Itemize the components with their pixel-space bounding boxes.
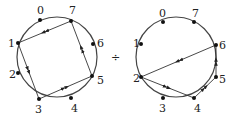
node-5: [90, 74, 94, 78]
operator-symbol: ÷: [111, 51, 120, 64]
node-label-5: 5: [97, 74, 104, 87]
node-2: [16, 71, 20, 75]
arrow-icon: [65, 87, 67, 88]
node-1: [16, 41, 20, 45]
node-6: [214, 43, 218, 47]
cycle-diagrams: 0765432107654321÷: [0, 0, 233, 117]
right-cycle: 07654321: [133, 7, 226, 115]
node-6: [91, 42, 95, 46]
node-label-4: 4: [71, 102, 78, 115]
arrow-icon: [61, 88, 63, 89]
node-0: [161, 20, 165, 24]
left-cycle: 07654321: [8, 4, 104, 116]
node-label-3: 3: [159, 102, 166, 115]
node-label-1: 1: [133, 37, 140, 50]
arrow-icon: [202, 89, 203, 90]
node-7: [69, 19, 73, 23]
node-0: [38, 18, 42, 22]
node-label-3: 3: [35, 103, 42, 116]
arrow-icon: [181, 59, 183, 60]
node-label-6: 6: [219, 39, 226, 52]
node-label-0: 0: [37, 4, 44, 17]
node-label-2: 2: [133, 72, 140, 85]
arrow-icon: [167, 87, 169, 88]
arrow-icon: [27, 67, 28, 69]
arrow-icon: [163, 86, 165, 87]
arrow-icon: [47, 30, 49, 31]
node-4: [69, 96, 73, 100]
node-5: [214, 75, 218, 79]
arrow-icon: [28, 71, 29, 73]
node-label-7: 7: [69, 4, 76, 17]
arrow-icon: [82, 51, 83, 53]
arrow-icon: [43, 32, 45, 33]
node-label-4: 4: [194, 102, 201, 115]
arrow-icon: [177, 61, 179, 62]
node-label-5: 5: [219, 73, 226, 86]
node-label-7: 7: [192, 7, 199, 20]
node-7: [192, 20, 196, 24]
node-3: [37, 97, 41, 101]
node-label-0: 0: [159, 7, 166, 20]
node-label-1: 1: [8, 37, 15, 50]
node-label-2: 2: [9, 68, 16, 81]
node-4: [192, 96, 196, 100]
node-3: [161, 96, 165, 100]
arrow-icon: [81, 47, 82, 49]
circle-outline: [136, 17, 216, 97]
arrow-icon: [205, 86, 206, 87]
node-label-6: 6: [97, 37, 104, 50]
